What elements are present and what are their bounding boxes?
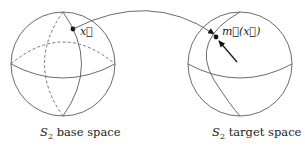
target-caption-text: target space	[225, 125, 302, 139]
point-m	[214, 35, 219, 40]
target-space-caption: S2 target space	[212, 125, 302, 141]
magnetization-vector	[219, 41, 237, 62]
base-space-sphere	[11, 12, 115, 116]
base-sphere-outline	[11, 12, 115, 116]
diagram-canvas: x⃗ m⃗(x⃗) S2 base space S2 target space	[0, 0, 305, 148]
base-equator-front	[11, 64, 115, 78]
point-x-label: x⃗	[80, 25, 93, 38]
target-equator-front	[188, 64, 292, 78]
point-m-label: m⃗(x⃗)	[222, 25, 260, 38]
target-caption-symbol: S	[212, 125, 220, 139]
base-caption-text: base space	[53, 125, 121, 139]
base-equator-back	[11, 42, 115, 64]
base-meridian-back	[45, 12, 64, 116]
base-space-caption: S2 base space	[40, 125, 121, 141]
base-caption-symbol: S	[40, 125, 48, 139]
